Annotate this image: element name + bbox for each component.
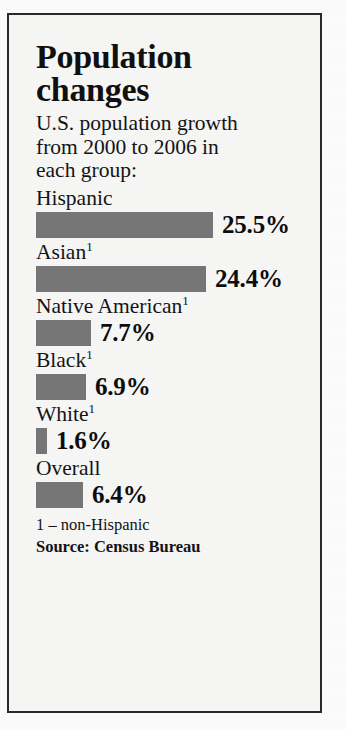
bar-category-label: Overall <box>36 456 310 480</box>
bar-row: 24.4% <box>36 266 310 292</box>
bar-value-label: 7.7% <box>100 320 155 345</box>
bar-rect <box>36 374 86 400</box>
infographic-chart: Population changes U.S. population growt… <box>0 0 346 730</box>
bar-group: Native American17.7% <box>36 294 310 346</box>
bar-group: Overall6.4% <box>36 456 310 508</box>
bar-row: 6.9% <box>36 374 310 400</box>
bar-rect <box>36 482 83 508</box>
bar-group: Asian124.4% <box>36 240 310 292</box>
bar-value-label: 6.4% <box>92 482 147 507</box>
bar-category-label: Hispanic <box>36 186 310 210</box>
bar-group: White11.6% <box>36 402 310 454</box>
bar-value-label: 1.6% <box>56 428 111 453</box>
bar-row: 25.5% <box>36 212 310 238</box>
page-title: Population changes <box>36 41 310 106</box>
bar-category-label: Native American1 <box>36 294 310 318</box>
bar-category-label: Black1 <box>36 348 310 372</box>
bar-rect <box>36 212 213 238</box>
bar-group-list: Hispanic25.5%Asian124.4%Native American1… <box>36 186 310 508</box>
bar-rect <box>36 428 47 454</box>
chart-subtitle: U.S. population growth from 2000 to 2006… <box>36 112 310 182</box>
footnote-marker: 1 <box>89 402 95 416</box>
bar-row: 1.6% <box>36 428 310 454</box>
footnote-note: 1 – non-Hispanic <box>36 515 310 535</box>
bar-value-label: 6.9% <box>95 374 150 399</box>
bar-group: Black16.9% <box>36 348 310 400</box>
bar-row: 6.4% <box>36 482 310 508</box>
bar-category-label: White1 <box>36 402 310 426</box>
footnote-source: Source: Census Bureau <box>36 537 310 557</box>
bar-value-label: 24.4% <box>215 266 283 291</box>
footnote-marker: 1 <box>86 348 92 362</box>
bar-rect <box>36 266 206 292</box>
chart-frame: Population changes U.S. population growt… <box>7 13 322 713</box>
footnotes: 1 – non-Hispanic Source: Census Bureau <box>36 515 310 557</box>
bar-category-label: Asian1 <box>36 240 310 264</box>
footnote-marker: 1 <box>182 294 188 308</box>
footnote-marker: 1 <box>86 239 92 253</box>
bar-group: Hispanic25.5% <box>36 186 310 238</box>
bar-row: 7.7% <box>36 320 310 346</box>
bar-rect <box>36 320 91 346</box>
bar-value-label: 25.5% <box>222 212 290 237</box>
chart-content: Population changes U.S. population growt… <box>36 41 310 557</box>
